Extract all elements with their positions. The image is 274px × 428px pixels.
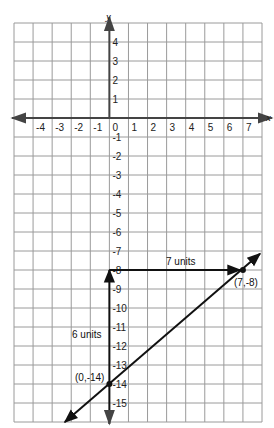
point-label-a: (0,-14) — [75, 372, 104, 383]
run-label: 7 units — [166, 256, 195, 267]
y-tick-label: -4 — [112, 189, 121, 200]
x-tick-label: 7 — [246, 122, 252, 133]
y-tick-label: -3 — [112, 170, 121, 181]
axes — [12, 17, 272, 118]
y-tick-label: -6 — [112, 227, 121, 238]
y-tick-label: -14 — [112, 379, 127, 390]
y-tick-label: -11 — [112, 322, 126, 333]
coordinate-plane: -4-3-2-1012345674321-1-2-3-4-5-6-7-8-9-1… — [0, 0, 274, 428]
y-tick-label: -7 — [112, 246, 121, 257]
y-tick-label: -10 — [112, 303, 127, 314]
y-tick-label: 2 — [112, 75, 118, 86]
x-axis-label: x — [265, 111, 271, 123]
data-point — [240, 267, 246, 273]
x-tick-label: 2 — [151, 122, 157, 133]
y-tick-label: -2 — [112, 151, 121, 162]
y-tick-label: -5 — [112, 208, 121, 219]
x-tick-label: 4 — [189, 122, 195, 133]
y-tick-label: -15 — [112, 398, 127, 409]
y-tick-label: 1 — [112, 94, 118, 105]
x-tick-label: 1 — [131, 122, 137, 133]
x-tick-label: 6 — [227, 122, 233, 133]
y-tick-label: 3 — [112, 56, 118, 67]
x-tick-label: -2 — [74, 122, 83, 133]
x-tick-label: 5 — [208, 122, 214, 133]
y-axis-label: y — [105, 10, 111, 22]
y-tick-label: -1 — [112, 132, 121, 143]
x-tick-label: 3 — [170, 122, 176, 133]
y-tick-label: -9 — [112, 284, 121, 295]
x-tick-label: -1 — [93, 122, 102, 133]
y-tick-label: -12 — [112, 341, 127, 352]
point-label-b: (7,-8) — [234, 277, 258, 288]
y-tick-label: 4 — [112, 37, 118, 48]
x-tick-label: -4 — [36, 122, 45, 133]
grid — [14, 23, 262, 422]
data-point — [106, 381, 112, 387]
rise-label: 6 units — [72, 329, 101, 340]
annotations — [109, 270, 240, 424]
x-tick-label: -3 — [55, 122, 64, 133]
